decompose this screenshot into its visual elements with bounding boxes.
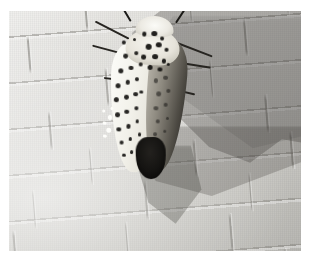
wing-spot	[115, 82, 121, 88]
wing-spot	[122, 153, 126, 157]
shadowed-wing-spot	[153, 78, 158, 83]
wing-spot	[126, 124, 130, 128]
shadowed-wing-spot	[153, 132, 157, 136]
thorax-spot	[157, 67, 162, 72]
shadowed-wing-spot	[163, 103, 167, 107]
wing-spot	[123, 94, 128, 99]
thorax-spot	[145, 43, 151, 49]
wing-spot	[134, 51, 138, 55]
photograph	[9, 11, 301, 251]
wing-spot	[138, 62, 142, 66]
shadowed-wing-spot	[155, 119, 159, 123]
shadowed-wing-spot	[165, 116, 169, 120]
photo-caption	[9, 253, 301, 267]
wing-spot	[123, 53, 128, 58]
scale-fleck	[103, 134, 107, 138]
scale-fleck	[103, 121, 107, 125]
scale-fleck	[106, 128, 111, 133]
wing-spot	[138, 133, 141, 136]
shadowed-wing-spot	[163, 75, 168, 80]
wing-spot	[116, 127, 121, 132]
wing-spot	[119, 140, 123, 144]
wing-spot	[118, 68, 124, 74]
shadowed-wing-spot	[156, 91, 161, 96]
wing-spot	[133, 92, 138, 97]
wing-spot	[124, 109, 129, 114]
wing-spot	[128, 65, 133, 70]
scale-fleck	[102, 110, 105, 113]
page-root	[0, 0, 310, 269]
leopard-moth	[103, 14, 199, 182]
wing-spot	[130, 150, 133, 153]
wing-spot	[133, 38, 137, 42]
shadowed-wing-spot	[163, 129, 166, 132]
moth-abdomen	[135, 136, 166, 179]
wing-spot	[122, 40, 126, 44]
thorax-spot	[151, 30, 157, 36]
thorax-spot	[152, 53, 158, 59]
wing-spot	[135, 119, 139, 123]
wing-spot	[115, 112, 120, 117]
thorax-spot	[156, 42, 162, 48]
wing-spot	[139, 90, 143, 94]
wing-spot	[125, 80, 130, 85]
shadowed-wing-spot	[166, 88, 170, 92]
thorax-spot	[141, 54, 146, 59]
shadowed-wing-spot	[153, 106, 158, 111]
thorax-spot	[147, 65, 152, 70]
scale-fleck	[107, 115, 112, 120]
